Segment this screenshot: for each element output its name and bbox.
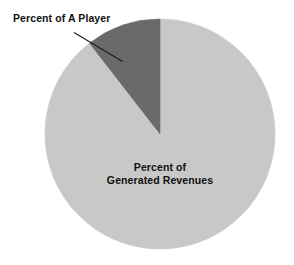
- pie-chart-figure: Percent of A Player Percent of Generated…: [0, 0, 294, 265]
- slice-label-a-player: Percent of A Player: [13, 12, 110, 25]
- slice-label-generated-revenues-line1: Percent of: [97, 161, 223, 174]
- slice-label-generated-revenues-line2: Generated Revenues: [97, 174, 223, 187]
- slice-label-generated-revenues: Percent of Generated Revenues: [97, 161, 223, 187]
- pie-chart-graphic: [0, 0, 294, 265]
